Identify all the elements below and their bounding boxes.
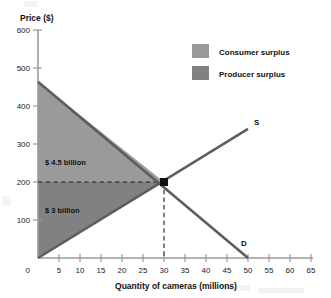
y-tick-label-600: 600 <box>17 26 31 35</box>
y-tick-label-300: 300 <box>17 140 31 149</box>
x-tick-label-60: 60 <box>286 266 295 275</box>
legend-label-consumer-surplus: Consumer surplus <box>219 48 290 57</box>
x-tick-label-55: 55 <box>265 266 274 275</box>
x-tick-label-5: 5 <box>57 266 62 275</box>
x-tick-label-50: 50 <box>244 266 253 275</box>
scan-artifact-bottom <box>258 288 304 293</box>
supply-demand-surplus-chart: 600 500 400 300 200 100 0 5 10 15 20 25 … <box>0 0 331 298</box>
x-tick-label-65: 65 <box>307 266 316 275</box>
producer-surplus-value-label: $ 3 billion <box>45 206 80 215</box>
y-tick-label-200: 200 <box>17 178 31 187</box>
x-tick-label-30: 30 <box>160 266 169 275</box>
x-tick-label-10: 10 <box>76 266 85 275</box>
x-tick-label-15: 15 <box>97 266 106 275</box>
supply-curve-label: S <box>254 118 260 127</box>
equilibrium-point-marker <box>160 178 168 186</box>
legend-swatch-consumer-surplus <box>192 44 209 58</box>
x-axis-title: Quantity of cameras (millions) <box>115 281 237 291</box>
x-tick-label-35: 35 <box>181 266 190 275</box>
y-tick-label-0: 0 <box>26 266 31 275</box>
x-tick-label-20: 20 <box>118 266 127 275</box>
scan-artifact-top <box>24 1 37 7</box>
chart-container: 600 500 400 300 200 100 0 5 10 15 20 25 … <box>0 0 331 298</box>
scan-artifact-left <box>2 196 11 206</box>
y-axis-title: Price ($) <box>20 13 54 23</box>
chart-legend: Consumer surplus Producer surplus <box>192 44 290 80</box>
y-tick-label-400: 400 <box>17 102 31 111</box>
x-tick-label-45: 45 <box>223 266 232 275</box>
y-tick-label-500: 500 <box>17 64 31 73</box>
y-tick-label-100: 100 <box>17 216 31 225</box>
x-tick-label-25: 25 <box>139 266 148 275</box>
consumer-surplus-value-label: $ 4.5 billion <box>45 158 86 167</box>
x-tick-label-40: 40 <box>202 266 211 275</box>
legend-label-producer-surplus: Producer surplus <box>219 70 286 79</box>
legend-swatch-producer-surplus <box>192 66 209 80</box>
demand-curve-label: D <box>241 239 247 248</box>
